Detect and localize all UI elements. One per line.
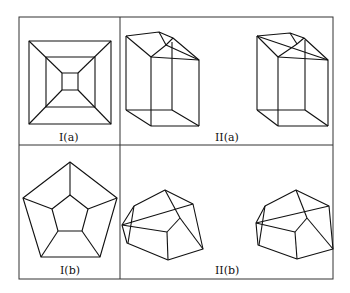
panel-IIb-polyhedron-right [256,190,333,259]
polyhedra-figure: I(a) II(a) [0,0,350,293]
panel-IIb-polyhedron-left [122,190,203,260]
panel-label-Ia: I(a) [59,131,79,144]
panel-Ib-diagram [23,162,117,257]
figure-grid [19,17,333,279]
panel-label-Ib: I(b) [60,264,80,277]
panel-Ia-diagram [29,41,111,124]
panel-label-IIa: II(a) [215,131,239,144]
panel-IIa-polyhedron-right [257,33,328,126]
panel-IIa-polyhedron-left [126,32,199,126]
panel-label-IIb: II(b) [215,264,239,277]
